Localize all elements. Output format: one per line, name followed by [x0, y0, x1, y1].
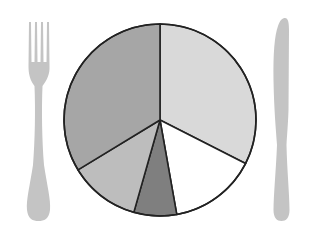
- knife-icon: [273, 18, 289, 221]
- pie-chart-plate-illustration: Slice 1: 32.5%Slice 2: 14.7%Slice 3: 7.2…: [0, 0, 309, 238]
- chart-canvas: [0, 0, 309, 238]
- fork-icon: [27, 22, 50, 221]
- pie-chart: [64, 24, 256, 216]
